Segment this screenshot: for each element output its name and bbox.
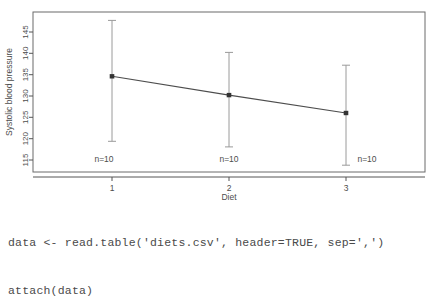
code-line-attach: attach(data) xyxy=(8,283,384,299)
y-axis-tick-labels: 115 120 125 130 135 140 145 xyxy=(21,25,30,167)
x-tick-label-1: 1 xyxy=(110,183,115,193)
annotation-n-diet-1: n=10 xyxy=(94,154,113,164)
y-axis-title: Systolic blood pressure xyxy=(4,48,14,136)
mean-point-diet-2 xyxy=(227,93,232,97)
x-axis-title: Diet xyxy=(221,192,237,200)
y-tick-label-140: 140 xyxy=(21,46,30,60)
y-tick-label-115: 115 xyxy=(21,153,30,166)
y-tick-label-145: 145 xyxy=(21,25,30,39)
y-tick-label-130: 130 xyxy=(21,89,30,103)
r-code-block: data <- read.table('diets.csv', header=T… xyxy=(8,203,384,300)
y-tick-label-120: 120 xyxy=(21,131,30,145)
mean-point-diet-3 xyxy=(344,111,349,115)
annotation-n-diet-3: n=10 xyxy=(357,154,376,164)
x-tick-label-3: 3 xyxy=(344,183,349,193)
x-axis-ticks xyxy=(112,177,346,181)
y-tick-label-125: 125 xyxy=(21,110,30,124)
annotation-n-diet-2: n=10 xyxy=(219,154,238,164)
mean-point-diet-1 xyxy=(110,74,115,78)
diet-blood-pressure-plot: 115 120 125 130 135 140 145 Systolic blo… xyxy=(0,0,437,200)
y-tick-label-135: 135 xyxy=(21,67,30,81)
code-line-read-table: data <- read.table('diets.csv', header=T… xyxy=(8,235,384,251)
